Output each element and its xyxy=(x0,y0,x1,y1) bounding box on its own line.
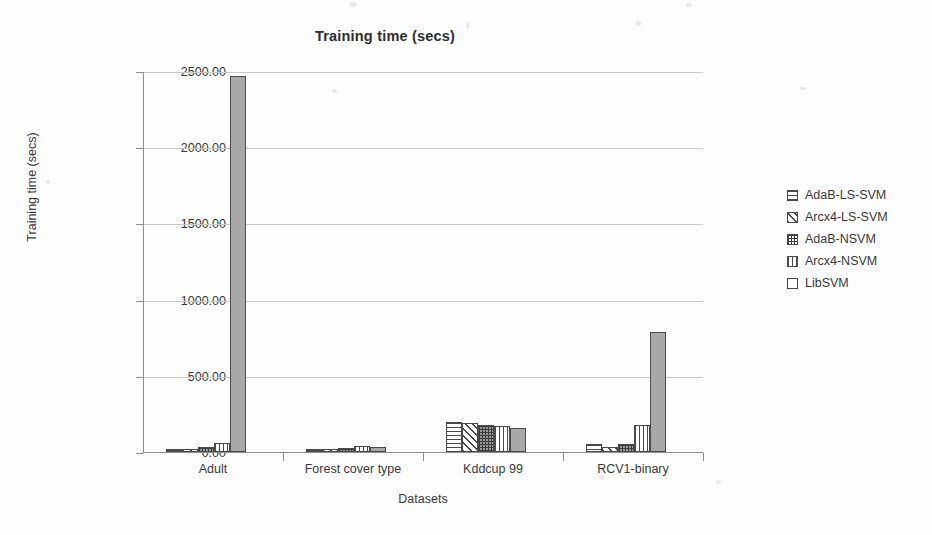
bar-group xyxy=(446,72,526,452)
x-axis-tick-label: RCV1-binary xyxy=(548,462,718,476)
bar-group xyxy=(166,72,246,452)
y-axis-tick-mark xyxy=(136,224,143,225)
legend-item[interactable]: AdaB-NSVM xyxy=(787,228,888,250)
legend-swatch-icon xyxy=(787,234,798,245)
bar-series-container xyxy=(144,72,703,452)
scan-artifact xyxy=(46,180,50,184)
chart-title: Training time (secs) xyxy=(0,28,770,44)
legend-item[interactable]: AdaB-LS-SVM xyxy=(787,184,888,206)
y-axis-title: Training time (secs) xyxy=(25,97,39,277)
bar xyxy=(650,332,666,452)
bar xyxy=(230,76,246,452)
x-axis-tick-mark xyxy=(423,453,424,461)
x-axis-tick-mark xyxy=(703,453,704,461)
bar xyxy=(338,448,354,452)
bar xyxy=(634,425,650,452)
bar xyxy=(306,449,322,452)
legend-item[interactable]: Arcx4-LS-SVM xyxy=(787,206,888,228)
bar xyxy=(354,446,370,452)
bar xyxy=(602,447,618,452)
bar xyxy=(586,444,602,452)
x-axis-tick-mark xyxy=(563,453,564,461)
scan-artifact xyxy=(800,87,806,90)
y-axis-tick-mark xyxy=(136,377,143,378)
chart-canvas: Training time (secs) Training time (secs… xyxy=(0,0,932,535)
legend-swatch-icon xyxy=(787,256,798,267)
bar xyxy=(370,447,386,452)
bar xyxy=(478,425,494,452)
bar xyxy=(462,423,478,452)
bar xyxy=(182,449,198,452)
scan-artifact xyxy=(636,21,641,26)
bar xyxy=(446,422,462,452)
x-axis-tick-mark xyxy=(283,453,284,461)
bar xyxy=(494,426,510,452)
bar xyxy=(510,428,526,452)
legend-label: LibSVM xyxy=(805,276,849,290)
bar xyxy=(322,449,338,452)
bar xyxy=(198,447,214,452)
scan-artifact xyxy=(349,2,357,7)
legend-swatch-icon xyxy=(787,190,798,201)
scan-artifact xyxy=(716,480,721,484)
y-axis-tick-mark xyxy=(136,301,143,302)
bar xyxy=(214,443,230,452)
y-axis-tick-mark xyxy=(136,148,143,149)
bar xyxy=(618,444,634,452)
scan-artifact xyxy=(686,3,692,7)
legend-item[interactable]: LibSVM xyxy=(787,272,888,294)
legend-label: Arcx4-LS-SVM xyxy=(805,210,888,224)
scan-artifact xyxy=(600,476,605,480)
x-axis-title: Datasets xyxy=(143,492,703,506)
legend-label: Arcx4-NSVM xyxy=(805,254,877,268)
legend-label: AdaB-NSVM xyxy=(805,232,876,246)
legend-swatch-icon xyxy=(787,212,798,223)
plot-area xyxy=(143,72,703,453)
legend: AdaB-LS-SVMArcx4-LS-SVMAdaB-NSVMArcx4-NS… xyxy=(787,184,888,294)
y-axis-tick-mark xyxy=(136,72,143,73)
legend-item[interactable]: Arcx4-NSVM xyxy=(787,250,888,272)
legend-swatch-icon xyxy=(787,278,798,289)
y-axis-tick-mark xyxy=(136,453,143,454)
bar xyxy=(166,449,182,452)
bar-group xyxy=(586,72,666,452)
legend-label: AdaB-LS-SVM xyxy=(805,188,886,202)
bar-group xyxy=(306,72,386,452)
